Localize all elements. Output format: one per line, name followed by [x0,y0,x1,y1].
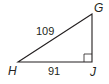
vertex-label-j: J [89,65,97,79]
vertex-label-g: G [94,1,103,15]
triangle-ghj [18,14,92,62]
vertex-label-h: H [8,64,17,78]
right-angle-marker [84,54,92,62]
triangle-diagram: G H J 109 91 [0,0,109,84]
side-length-hj: 91 [48,65,60,77]
side-length-hg: 109 [36,25,54,37]
